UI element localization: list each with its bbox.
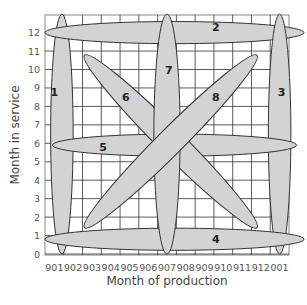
ellipse-label-4: 4 xyxy=(212,233,220,246)
x-tick-label: 905 xyxy=(120,262,138,273)
ellipse-label-1: 1 xyxy=(51,86,59,99)
y-tick-label: 7 xyxy=(34,119,40,130)
y-tick-label: 10 xyxy=(28,64,40,75)
x-tick-label: 908 xyxy=(177,262,195,273)
y-tick-label: 9 xyxy=(34,82,40,93)
x-tick-label: 907 xyxy=(158,262,176,273)
x-tick-label: 912 xyxy=(252,262,270,273)
x-tick-label: 904 xyxy=(102,262,120,273)
y-tick-label: 2 xyxy=(34,212,40,223)
ellipse-label-7: 7 xyxy=(165,64,173,77)
y-tick-label: 12 xyxy=(28,27,40,38)
x-tick-label: 902 xyxy=(64,262,82,273)
y-tick-label: 3 xyxy=(34,193,40,204)
ellipse-label-3: 3 xyxy=(278,86,286,99)
x-axis-title: Month of production xyxy=(106,274,227,288)
ellipse-label-8: 8 xyxy=(212,91,220,104)
x-tick-label: 001 xyxy=(271,262,289,273)
ellipse-label-5: 5 xyxy=(99,141,107,154)
x-axis-ticks: 901902903904905906907908909910911912001 xyxy=(45,262,288,273)
y-tick-label: 11 xyxy=(28,46,40,57)
ellipse-1 xyxy=(51,14,74,254)
y-tick-label: 5 xyxy=(34,156,40,167)
ellipse-label-2: 2 xyxy=(212,21,220,34)
x-tick-label: 910 xyxy=(214,262,232,273)
x-tick-label: 911 xyxy=(233,262,251,273)
x-tick-label: 909 xyxy=(195,262,213,273)
x-tick-label: 901 xyxy=(45,262,63,273)
x-tick-label: 903 xyxy=(83,262,101,273)
x-tick-label: 906 xyxy=(139,262,157,273)
y-tick-label: 0 xyxy=(34,249,40,260)
y-axis-ticks: 0123456789101112 xyxy=(28,27,40,259)
y-tick-label: 4 xyxy=(34,175,40,186)
ellipse-label-6: 6 xyxy=(122,91,130,104)
y-tick-label: 6 xyxy=(34,138,40,149)
production-service-diagram: 12345678 9019029039049059069079089099109… xyxy=(0,0,307,305)
y-tick-label: 1 xyxy=(34,230,40,241)
ellipse-3 xyxy=(268,14,291,254)
y-axis-title: Month in service xyxy=(8,85,22,184)
y-tick-label: 8 xyxy=(34,101,40,112)
